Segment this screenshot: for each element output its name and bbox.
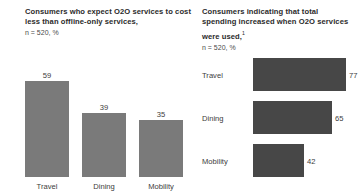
bar-value-dining: 65 [332, 113, 343, 122]
bar-row-dining: Dining 65 [202, 101, 357, 134]
bar-dining[interactable] [253, 101, 332, 134]
left-panel-sample-note: n = 520, % [25, 28, 193, 39]
left-chart-panel: Consumers who expect O2O services to cos… [0, 0, 196, 191]
bar-group-dining: 39 Dining [82, 52, 126, 191]
right-horizontal-bar-plot: Travel 77 Dining 65 Mobility 42 [202, 58, 357, 186]
bar-travel[interactable] [25, 81, 69, 177]
left-panel-title-text: Consumers who expect O2O services to cos… [25, 7, 191, 26]
bar-mobility[interactable] [253, 144, 304, 177]
bar-row-mobility: Mobility 42 [202, 144, 357, 177]
left-panel-title: Consumers who expect O2O services to cos… [25, 7, 193, 38]
bar-value-mobility: 42 [304, 156, 315, 165]
category-label-dining: Dining [82, 182, 126, 191]
bar-mobility-wrapper: 35 [139, 66, 183, 177]
left-vertical-bar-plot: 59 Travel 39 Dining 35 Mobility [25, 52, 187, 191]
bar-mobility[interactable] [139, 120, 183, 177]
right-panel-title-text: Consumers indicating that total spending… [202, 7, 348, 41]
category-label-mobility: Mobility [202, 156, 251, 165]
bar-travel[interactable] [253, 58, 346, 91]
bar-value-dining: 39 [82, 103, 126, 112]
bar-dining[interactable] [82, 113, 126, 177]
bar-value-mobility: 35 [139, 110, 183, 119]
footnote-marker: 1 [242, 30, 245, 36]
bar-value-travel: 77 [346, 70, 357, 79]
category-label-travel: Travel [202, 70, 251, 79]
right-panel-title: Consumers indicating that total spending… [202, 7, 354, 53]
bar-row-travel: Travel 77 [202, 58, 357, 91]
category-label-dining: Dining [202, 113, 251, 122]
category-label-travel: Travel [25, 182, 69, 191]
bar-dining-wrapper: 39 [82, 66, 126, 177]
bar-group-mobility: 35 Mobility [139, 52, 183, 191]
bar-travel-wrapper: 59 [25, 66, 69, 177]
right-chart-panel: Consumers indicating that total spending… [196, 0, 359, 191]
bar-mobility-track: 42 [253, 144, 357, 177]
bar-group-travel: 59 Travel [25, 52, 69, 191]
right-panel-sample-note: n = 520, % [202, 42, 354, 54]
two-panel-bar-chart-figure: Consumers who expect O2O services to cos… [0, 0, 359, 191]
bar-travel-track: 77 [253, 58, 357, 91]
bar-dining-track: 65 [253, 101, 357, 134]
category-label-mobility: Mobility [139, 182, 183, 191]
bar-value-travel: 59 [25, 71, 69, 80]
